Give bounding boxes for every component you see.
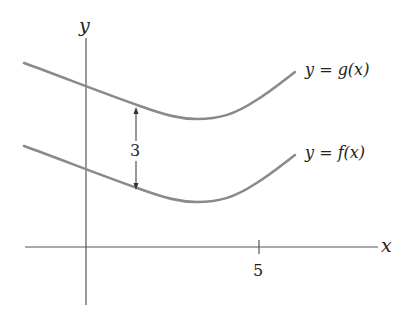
x-tick-label-5: 5 [253,263,263,279]
g-curve-label-eq: = [314,60,338,79]
curve-g [24,63,295,119]
f-curve-label-rhs: f(x) [338,143,365,162]
y-axis-label: y [79,16,90,35]
curve-f [24,146,295,202]
f-curve-label-eq: = [314,143,338,162]
x-axis-label: x [381,236,392,255]
g-curve-label: y = g(x) [305,62,369,78]
g-curve-label-rhs: g(x) [338,60,370,79]
f-curve-label: y = f(x) [305,145,365,161]
f-curve-label-lhs: y [305,143,314,162]
gap-label: 3 [130,143,140,159]
g-curve-label-lhs: y [305,60,314,79]
